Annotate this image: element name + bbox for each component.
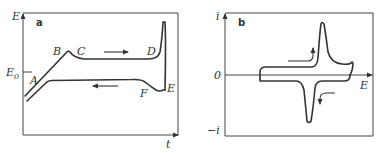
- e0-label: E0: [5, 66, 19, 81]
- panel-b: i b 0 E −i: [207, 10, 373, 137]
- anodic-arrow-icon: [288, 48, 313, 61]
- panel-b-label: b: [238, 17, 245, 28]
- potential-curve-forward: [25, 22, 166, 96]
- point-e-label: E: [166, 82, 175, 95]
- zero-current-label: 0: [214, 69, 221, 82]
- voltammogram-anodic-branch: [260, 23, 353, 80]
- point-d-label: D: [146, 45, 156, 58]
- voltammogram-cathodic-branch: [260, 75, 350, 123]
- panel-a: E a E0 A B C D E F t: [5, 10, 178, 151]
- panel-a-x-axis-label: t: [166, 138, 171, 151]
- point-c-label: C: [77, 45, 86, 58]
- panel-a-label: a: [36, 17, 43, 28]
- point-f-label: F: [139, 87, 148, 100]
- point-a-label: A: [29, 74, 38, 87]
- negative-current-label: −i: [207, 124, 220, 137]
- panel-b-x-axis-label: E: [359, 79, 368, 92]
- diagram-canvas: E a E0 A B C D E F t i b 0 E −i: [0, 0, 380, 153]
- figure: E a E0 A B C D E F t i b 0 E −i: [0, 0, 380, 153]
- cathodic-arrow-icon: [320, 93, 335, 104]
- panel-a-y-axis-label: E: [11, 10, 20, 23]
- panel-b-y-axis-label: i: [216, 10, 220, 23]
- point-b-label: B: [52, 45, 61, 58]
